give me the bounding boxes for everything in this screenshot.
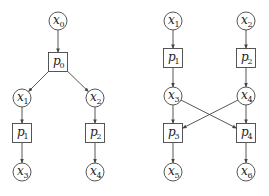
variable-node-x3: x3 bbox=[13, 163, 31, 181]
process-node-p3: p3 bbox=[164, 124, 183, 143]
process-node-p2: p2 bbox=[237, 49, 256, 68]
process-node-p0: p0 bbox=[49, 53, 68, 72]
process-node-p1: p1 bbox=[164, 49, 183, 68]
variable-node-x1: x1 bbox=[164, 12, 182, 30]
variable-node-x0: x0 bbox=[49, 12, 67, 30]
variable-node-x4: x4 bbox=[237, 87, 255, 105]
process-node-p4: p4 bbox=[237, 124, 256, 143]
node-label-subscript: 4 bbox=[248, 95, 253, 104]
variable-node-x3: x3 bbox=[164, 87, 182, 105]
variable-node-x5: x5 bbox=[164, 163, 182, 181]
right-graph-nodes: x1x2p1p2x3x4p3p4x5x6 bbox=[164, 12, 256, 181]
node-label-subscript: 1 bbox=[175, 20, 180, 29]
variable-node-x2: x2 bbox=[237, 12, 255, 30]
node-label-subscript: 0 bbox=[60, 20, 65, 29]
node-label-subscript: 1 bbox=[24, 97, 29, 106]
node-label-subscript: 2 bbox=[97, 97, 102, 106]
variable-node-x6: x6 bbox=[237, 163, 255, 181]
node-label-subscript: 3 bbox=[24, 171, 29, 180]
nodes-layer: x0p0x1x2p1p2x3x4x1x2p1p2x3x4p3p4x5x6 bbox=[13, 12, 256, 181]
node-label-subscript: 4 bbox=[97, 171, 102, 180]
edge-p0-to-x2 bbox=[68, 71, 89, 91]
variable-node-x1: x1 bbox=[13, 89, 31, 107]
node-label-subscript: 2 bbox=[248, 57, 253, 66]
left-graph-edges bbox=[22, 30, 95, 163]
node-label-subscript: 0 bbox=[60, 61, 65, 70]
left-graph-nodes: x0p0x1x2p1p2x3x4 bbox=[13, 12, 105, 181]
variable-node-x4: x4 bbox=[86, 163, 104, 181]
variable-node-x2: x2 bbox=[86, 89, 104, 107]
process-node-p2: p2 bbox=[86, 124, 105, 143]
edge-x4-to-p3 bbox=[183, 100, 238, 128]
right-graph-edges bbox=[173, 30, 246, 163]
process-node-p1: p1 bbox=[13, 124, 32, 143]
node-label-subscript: 4 bbox=[248, 132, 253, 141]
edge-x3-to-p4 bbox=[181, 100, 236, 128]
node-label-subscript: 1 bbox=[24, 132, 29, 141]
node-label-subscript: 1 bbox=[175, 57, 180, 66]
node-label-subscript: 3 bbox=[175, 95, 180, 104]
node-label-subscript: 2 bbox=[248, 20, 253, 29]
diagram-canvas: x0p0x1x2p1p2x3x4x1x2p1p2x3x4p3p4x5x6 bbox=[0, 0, 269, 196]
edge-p0-to-x1 bbox=[28, 72, 48, 92]
node-label-subscript: 5 bbox=[175, 171, 180, 180]
node-label-subscript: 2 bbox=[97, 132, 102, 141]
edges-layer bbox=[22, 30, 246, 163]
node-label-subscript: 6 bbox=[248, 171, 253, 180]
node-label-subscript: 3 bbox=[175, 132, 180, 141]
